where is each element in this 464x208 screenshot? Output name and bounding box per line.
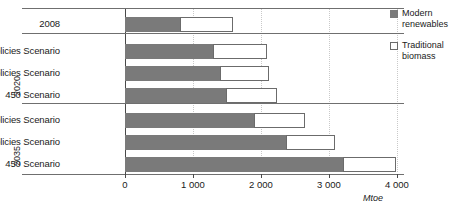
group-separator-line [22,8,404,9]
table-row[interactable]: 2008 [0,14,404,34]
row-label: 450 Scenario [0,85,60,105]
row-label: 450 Scenario [0,154,60,174]
row-label: Current Policies Scenario [0,41,60,61]
bar-segment-modern-renewables[interactable] [125,17,180,32]
legend-swatch-hollow-icon [390,42,398,50]
table-row[interactable]: 450 Scenario [0,85,404,105]
stacked-bar[interactable] [125,17,233,32]
group-label-2035: 2035 [12,146,22,166]
bar-segment-traditional-biomass[interactable] [226,88,278,103]
chart-legend: Modern renewables Traditional biomass [390,8,464,72]
stacked-bar-chart: 2008Current Policies ScenarioNew Policie… [0,0,464,208]
stacked-bar[interactable] [125,66,269,81]
bar-segment-modern-renewables[interactable] [125,66,220,81]
bar-segment-modern-renewables[interactable] [125,157,344,172]
bar-segment-traditional-biomass[interactable] [220,66,270,81]
tick-label-2000: 2 000 [249,179,273,190]
stacked-bar[interactable] [125,88,277,103]
tick-mark-3000 [329,174,330,178]
plot-area: 2008Current Policies ScenarioNew Policie… [0,0,404,178]
tick-mark-2000 [261,174,262,178]
row-label: Current Policies Scenario [0,110,60,130]
bar-segment-traditional-biomass[interactable] [286,135,336,150]
x-axis-unit-label: Mtoe [363,193,383,203]
stacked-bar[interactable] [125,44,267,59]
stacked-bar[interactable] [125,135,335,150]
bar-segment-modern-renewables[interactable] [125,88,226,103]
bar-segment-traditional-biomass[interactable] [180,17,234,32]
legend-item-traditional-biomass[interactable]: Traditional biomass [390,40,464,62]
legend-swatch-filled-icon [390,10,398,18]
row-label: 2008 [0,14,60,34]
bar-segment-traditional-biomass[interactable] [254,113,306,128]
legend-item-modern-renewables[interactable]: Modern renewables [390,8,464,30]
tick-mark-4000 [397,174,398,178]
row-label: New Policies Scenario [0,63,60,83]
tick-label-3000: 3 000 [317,179,341,190]
table-row[interactable]: New Policies Scenario [0,63,404,83]
bar-segment-modern-renewables[interactable] [125,135,286,150]
bar-segment-modern-renewables[interactable] [125,113,254,128]
bar-segment-modern-renewables[interactable] [125,44,213,59]
table-row[interactable]: New Policies Scenario [0,132,404,152]
row-label: New Policies Scenario [0,132,60,152]
stacked-bar[interactable] [125,113,305,128]
group-label-2020: 2020 [12,76,22,96]
bar-segment-traditional-biomass[interactable] [213,44,267,59]
bar-segment-traditional-biomass[interactable] [343,157,396,172]
tick-label-0: 0 [122,179,127,190]
x-axis-baseline [22,174,404,175]
tick-label-4000: 4 000 [385,179,409,190]
tick-mark-0 [125,174,126,178]
legend-label-traditional-biomass: Traditional biomass [402,40,464,62]
tick-label-1000: 1 000 [181,179,205,190]
table-row[interactable]: Current Policies Scenario [0,110,404,130]
tick-mark-1000 [193,174,194,178]
stacked-bar[interactable] [125,157,396,172]
table-row[interactable]: 450 Scenario [0,154,404,174]
legend-label-modern-renewables: Modern renewables [402,8,464,30]
table-row[interactable]: Current Policies Scenario [0,41,404,61]
